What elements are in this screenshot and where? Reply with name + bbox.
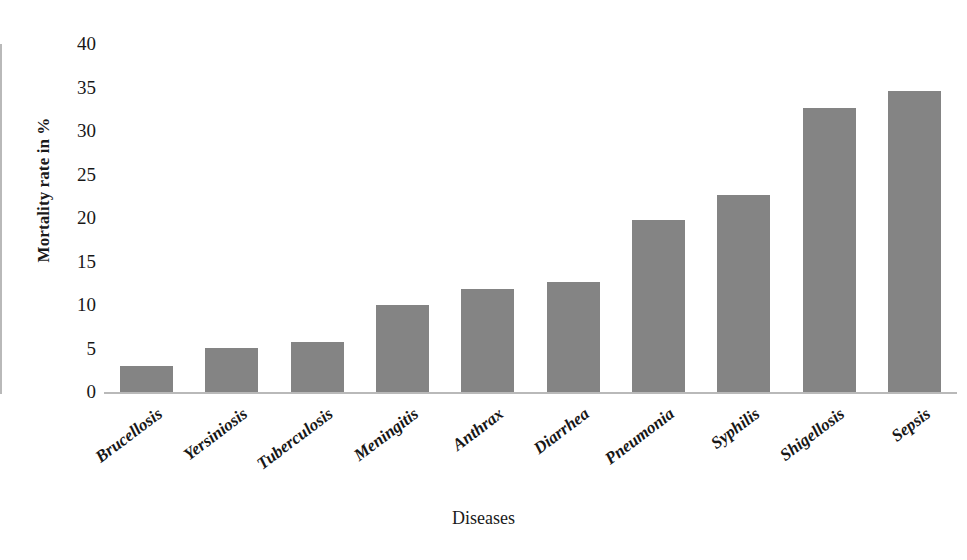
x-axis-tick-label: Tuberculosis — [253, 404, 337, 474]
bar — [205, 348, 258, 392]
x-axis-tick-label: Meningitis — [350, 404, 422, 465]
y-axis-tick-label: 30 — [50, 121, 96, 140]
y-axis-tick-label: 35 — [50, 78, 96, 97]
y-axis-tick-label: 40 — [50, 34, 96, 53]
bar — [291, 342, 344, 392]
bar — [632, 220, 685, 392]
y-axis-tick-labels: 0510152025303540 — [44, 0, 96, 560]
x-axis-tick-label: Yersiniosis — [180, 404, 252, 465]
bar-group — [803, 44, 856, 392]
bar-group — [888, 44, 941, 392]
bar-group — [291, 44, 344, 392]
bar-group — [547, 44, 600, 392]
y-axis-tick-label: 25 — [50, 165, 96, 184]
bar — [376, 305, 429, 392]
bar-group — [376, 44, 429, 392]
bar-group — [120, 44, 173, 392]
x-axis-tick-label: Syphilis — [707, 404, 764, 454]
bar — [717, 195, 770, 392]
x-axis-tick-label: Anthrax — [449, 404, 508, 455]
bar — [803, 108, 856, 392]
x-axis-tick-label: Diarrhea — [530, 404, 593, 459]
x-axis-title: Diseases — [0, 508, 967, 529]
x-axis-tick-label: Pneumonia — [602, 404, 679, 469]
bar-group — [717, 44, 770, 392]
x-axis-tick-label: Brucellosis — [92, 404, 167, 467]
y-axis-tick-label: 5 — [50, 339, 96, 358]
bar-group — [461, 44, 514, 392]
y-axis-line — [0, 44, 2, 394]
bar — [547, 282, 600, 392]
y-axis-tick-label: 20 — [50, 208, 96, 227]
bar — [888, 91, 941, 392]
mortality-rate-bar-chart: Mortality rate in % 0510152025303540 Bru… — [0, 0, 967, 560]
bar-group — [205, 44, 258, 392]
x-axis-tick-labels: BrucellosisYersiniosisTuberculosisMening… — [104, 394, 957, 494]
x-axis-tick-label: Shigellosis — [777, 404, 849, 465]
x-axis-tick-label: Sepsis — [888, 404, 935, 446]
y-axis-tick-label: 15 — [50, 252, 96, 271]
y-axis-tick-label: 0 — [50, 382, 96, 401]
bar — [120, 366, 173, 392]
bars-layer — [104, 44, 957, 392]
bar — [461, 289, 514, 392]
y-axis-tick-label: 10 — [50, 295, 96, 314]
bar-group — [632, 44, 685, 392]
